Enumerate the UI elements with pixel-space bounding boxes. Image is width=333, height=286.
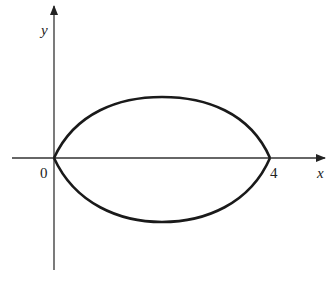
x-axis-label: x (316, 165, 324, 181)
origin-label: 0 (40, 165, 48, 181)
lower-curve (54, 158, 270, 222)
upper-curve (54, 97, 270, 158)
x-tick-label-4: 4 (270, 165, 278, 181)
diagram-canvas: y 0 4 x (0, 0, 333, 286)
y-axis-label: y (39, 22, 48, 38)
